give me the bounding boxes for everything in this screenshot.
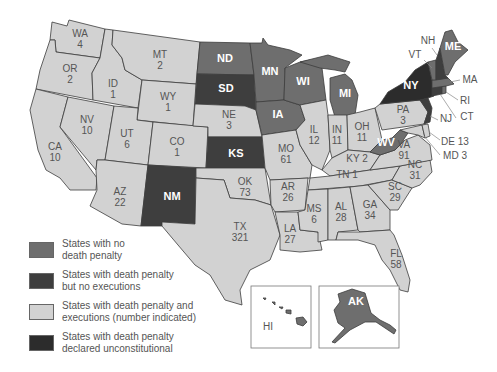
state-label-ar: AR (281, 181, 295, 192)
state-label-ms: MS (307, 203, 322, 214)
state-label-tx: TX (234, 221, 247, 232)
execution-count-ms: 6 (311, 214, 317, 225)
state-label-wi: WI (296, 75, 309, 87)
state-label-ky: KY 2 (346, 153, 368, 164)
state-label-al: AL (335, 201, 348, 212)
legend-label-line: declared unconstitutional (62, 343, 174, 355)
state-label-mn: MN (261, 65, 278, 77)
execution-count-pa: 3 (400, 115, 406, 126)
legend-swatch (29, 273, 54, 289)
state-label-co: CO (170, 136, 185, 147)
state-label-ne: NE (222, 109, 236, 120)
legend-label-line: but no executions (62, 281, 174, 293)
execution-count-ga: 34 (364, 210, 376, 221)
state-label-sc: SC (388, 181, 402, 192)
execution-count-mt: 2 (157, 60, 163, 71)
legend-item-executions: States with death penalty and executions… (29, 300, 239, 323)
execution-count-in: 11 (332, 135, 343, 146)
execution-count-co: 1 (174, 147, 180, 158)
state-label-fl: FL (390, 248, 402, 259)
execution-count-wy: 1 (165, 102, 171, 113)
legend-label-line: States with death penalty (62, 331, 174, 343)
execution-count-al: 28 (335, 212, 347, 223)
legend: States with no death penalty States with… (29, 238, 239, 362)
legend-label: States with no death penalty (62, 238, 125, 261)
execution-count-ne: 3 (226, 120, 232, 131)
state-label-il: IL (310, 124, 319, 135)
callout-ri (446, 92, 458, 100)
state-label-nh: NH (421, 35, 435, 46)
state-label-nj: NJ (440, 113, 452, 124)
legend-item-no-death-penalty: States with no death penalty (29, 238, 239, 261)
execution-count-ca: 10 (49, 152, 61, 163)
legend-swatch (29, 335, 54, 351)
execution-count-sc: 29 (389, 192, 401, 203)
execution-count-az: 22 (114, 197, 126, 208)
legend-label-line: States with death penalty and (62, 300, 196, 312)
state-label-ks: KS (228, 147, 243, 159)
execution-count-ok: 73 (239, 187, 251, 198)
execution-count-oh: 11 (357, 132, 368, 143)
state-label-nm: NM (163, 190, 180, 202)
state-label-nd: ND (217, 52, 233, 64)
state-label-ca: CA (48, 141, 62, 152)
state-label-ma: MA (463, 74, 478, 85)
execution-count-va: 91 (398, 150, 410, 161)
state-label-nv: NV (80, 114, 94, 125)
legend-label-line: States with no (62, 238, 125, 250)
legend-label: States with death penalty and executions… (62, 300, 196, 323)
callout-de (429, 132, 440, 140)
execution-count-nc: 31 (409, 170, 421, 181)
state-label-pa: PA (397, 104, 410, 115)
state-label-hi: HI (263, 321, 273, 332)
execution-count-ut: 6 (124, 139, 130, 150)
state-label-or: OR (63, 63, 78, 74)
execution-count-nv: 10 (81, 125, 93, 136)
legend-label: States with death penalty but no executi… (62, 269, 174, 292)
state-label-la: LA (284, 223, 297, 234)
state-label-ok: OK (238, 176, 253, 187)
state-label-me: ME (445, 40, 462, 52)
legend-item-unconstitutional: States with death penalty declared uncon… (29, 331, 239, 354)
state-label-wa: WA (72, 28, 88, 39)
callout-nh (432, 48, 437, 55)
callout-nj (430, 116, 438, 120)
state-label-vt: VT (409, 49, 422, 60)
state-label-ct: CT (460, 111, 473, 122)
state-label-va: VA (398, 139, 411, 150)
state-label-md: MD 3 (443, 150, 467, 161)
state-label-mo: MO (278, 143, 294, 154)
state-label-sd: SD (218, 82, 233, 94)
legend-label-line: executions (number indicated) (62, 312, 196, 324)
execution-count-la: 27 (284, 234, 296, 245)
state-label-mi: MI (339, 87, 351, 99)
state-label-az: AZ (114, 186, 127, 197)
execution-count-il: 12 (308, 135, 320, 146)
execution-count-wa: 4 (77, 39, 83, 50)
state-label-de: DE 13 (441, 136, 469, 147)
legend-label: States with death penalty declared uncon… (62, 331, 174, 354)
state-label-ak: AK (348, 295, 364, 307)
state-label-wv: WV (377, 136, 395, 148)
execution-count-or: 2 (67, 74, 73, 85)
state-label-mt: MT (153, 49, 167, 60)
state-label-ia: IA (273, 108, 284, 120)
state-label-ga: GA (363, 199, 378, 210)
legend-label-line: death penalty (62, 250, 125, 262)
state-label-wy: WY (160, 91, 176, 102)
state-RI (442, 86, 446, 94)
state-label-tn: TN 1 (336, 169, 358, 180)
state-label-in: IN (332, 124, 342, 135)
state-label-id: ID (108, 78, 118, 89)
state-label-ri: RI (460, 95, 470, 106)
legend-swatch (29, 242, 54, 258)
legend-label-line: States with death penalty (62, 269, 174, 281)
execution-count-mo: 61 (280, 154, 292, 165)
legend-swatch (29, 304, 54, 320)
state-label-nc: NC (408, 159, 422, 170)
state-ME (440, 30, 468, 75)
execution-count-id: 1 (110, 89, 116, 100)
legend-item-no-executions: States with death penalty but no executi… (29, 269, 239, 292)
state-label-ut: UT (120, 128, 133, 139)
execution-count-ar: 26 (282, 192, 294, 203)
